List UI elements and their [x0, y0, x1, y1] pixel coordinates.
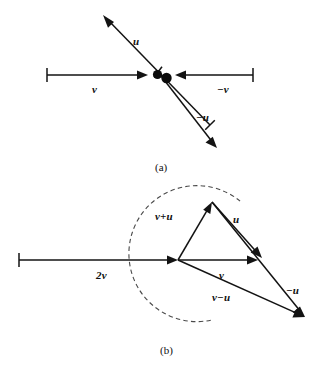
vector-v-a [47, 68, 148, 82]
vector-figure: u −u v −v (a) 2v v v+u u −u v−u (b) [0, 0, 326, 368]
particle-dot-2 [161, 73, 171, 83]
label-vector-u-a: u [133, 36, 139, 47]
vector-minus-v-a [175, 68, 253, 82]
panel-b-graphics [19, 186, 305, 322]
vector-two-v-b [19, 253, 178, 267]
label-vector-v-plus-u-b: v+u [155, 211, 173, 222]
vector-u-a-arrowhead [103, 15, 114, 28]
vector-v-plus-u-b-arrowhead [203, 202, 212, 214]
panel-a-graphics [47, 15, 253, 148]
label-vector-two-v-b: 2v [96, 270, 107, 281]
vector-v-b [178, 255, 258, 264]
particle-dot-1 [153, 70, 162, 79]
vector-two-v-b-arrowhead [167, 255, 178, 264]
label-vector-minus-u-a: −u [196, 112, 209, 123]
vector-v-plus-u-b-shaft [178, 209, 208, 260]
label-vector-v-minus-u-b: v−u [212, 292, 230, 303]
label-vector-v-b: v [219, 270, 224, 281]
label-vector-v-a: v [92, 84, 97, 95]
vector-v-minus-u-b-shaft [178, 260, 297, 313]
caption-panel-a: (a) [155, 162, 167, 173]
vector-v-a-arrowhead [137, 70, 148, 79]
vector-figure-canvas [0, 0, 326, 368]
caption-panel-b: (b) [160, 345, 173, 356]
label-vector-minus-v-a: −v [217, 84, 229, 95]
vector-minus-u-a-arrowhead [206, 137, 218, 148]
vector-minus-v-a-arrowhead [175, 70, 186, 79]
label-vector-u-b: u [233, 214, 239, 225]
vector-v-plus-u-b [178, 202, 212, 260]
label-vector-minus-u-b: −u [286, 285, 299, 296]
